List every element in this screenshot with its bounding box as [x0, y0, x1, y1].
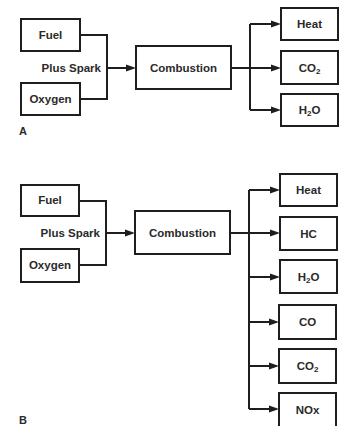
svg-text:Combustion: Combustion: [149, 227, 216, 239]
combustion-diagram: Fuel Oxygen Plus Spark Combustion Heat: [0, 0, 356, 426]
panel-a: Fuel Oxygen Plus Spark Combustion Heat: [19, 8, 338, 137]
process-combustion-b: Combustion: [135, 211, 230, 254]
arrowhead-icon: [269, 363, 279, 370]
input-fuel-b: Fuel: [21, 185, 79, 216]
output-h2o-b: H2O: [249, 260, 337, 293]
output-co2-a: CO2: [250, 51, 338, 84]
output-co2-b: CO2: [249, 349, 336, 383]
arrowhead-icon: [271, 107, 281, 114]
output-nox-b: NOx: [249, 393, 336, 426]
arrowhead-icon: [126, 65, 136, 72]
arrowhead-icon: [271, 65, 281, 72]
output-heat-b: Heat: [249, 174, 337, 206]
input-oxygen-a: Oxygen: [21, 83, 80, 115]
output-h2o-a: H2O: [250, 94, 338, 126]
arrowhead-icon: [271, 21, 281, 28]
svg-text:HC: HC: [300, 228, 317, 240]
plus-spark-label-b: Plus Spark: [41, 227, 101, 239]
output-co-b: CO: [249, 305, 336, 339]
output-hc-b: HC: [249, 217, 337, 250]
arrowhead-icon: [270, 187, 280, 194]
output-heat-a: Heat: [250, 8, 338, 40]
svg-text:Fuel: Fuel: [38, 194, 62, 206]
svg-text:NOx: NOx: [296, 404, 320, 416]
arrowhead-icon: [269, 406, 279, 413]
panel-b: Fuel Oxygen Plus Spark Combustion Heat H…: [19, 174, 337, 426]
input-fuel-a: Fuel: [21, 19, 80, 51]
plus-spark-label-a: Plus Spark: [42, 62, 102, 74]
svg-text:Heat: Heat: [297, 18, 322, 30]
arrowhead-icon: [269, 319, 279, 326]
arrowhead-icon: [270, 274, 280, 281]
svg-text:Combustion: Combustion: [150, 62, 217, 74]
svg-text:Oxygen: Oxygen: [29, 259, 71, 271]
panel-label-b: B: [19, 414, 27, 426]
arrowhead-icon: [125, 230, 135, 237]
process-combustion-a: Combustion: [136, 46, 231, 89]
svg-text:Heat: Heat: [296, 184, 321, 196]
svg-text:Oxygen: Oxygen: [29, 93, 71, 105]
svg-text:CO: CO: [299, 316, 316, 328]
arrowhead-icon: [270, 230, 280, 237]
svg-text:Fuel: Fuel: [39, 29, 63, 41]
panel-label-a: A: [19, 125, 27, 137]
input-oxygen-b: Oxygen: [21, 249, 79, 282]
